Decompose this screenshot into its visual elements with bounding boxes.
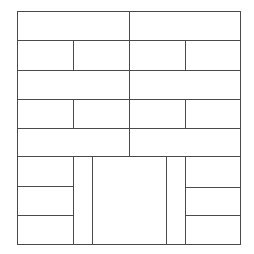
right-stack-cell-3 — [185, 215, 241, 245]
row-4-cell-3 — [129, 99, 186, 129]
left-narrow-column — [73, 156, 93, 245]
right-stack-cell-1 — [185, 156, 241, 188]
row-2-cell-3 — [129, 40, 186, 71]
right-narrow-column — [166, 156, 186, 245]
row-3-cell-1 — [17, 70, 130, 100]
row-5-cell-1 — [17, 128, 130, 157]
row-2-cell-1 — [17, 40, 74, 71]
row-1-cell-1 — [17, 11, 130, 41]
row-2-cell-2 — [73, 40, 130, 71]
center-panel — [92, 156, 167, 245]
row-2-cell-4 — [185, 40, 241, 71]
row-4-cell-1 — [17, 99, 74, 129]
left-stack-cell-1 — [17, 156, 74, 187]
left-stack-cell-2 — [17, 186, 74, 216]
row-3-cell-2 — [129, 70, 241, 100]
panel-layout-diagram — [0, 0, 254, 254]
right-stack-cell-2 — [185, 187, 241, 216]
row-5-cell-2 — [129, 128, 241, 157]
row-4-cell-4 — [185, 99, 241, 129]
left-stack-cell-3 — [17, 215, 74, 245]
row-4-cell-2 — [73, 99, 130, 129]
row-1-cell-2 — [129, 11, 241, 41]
